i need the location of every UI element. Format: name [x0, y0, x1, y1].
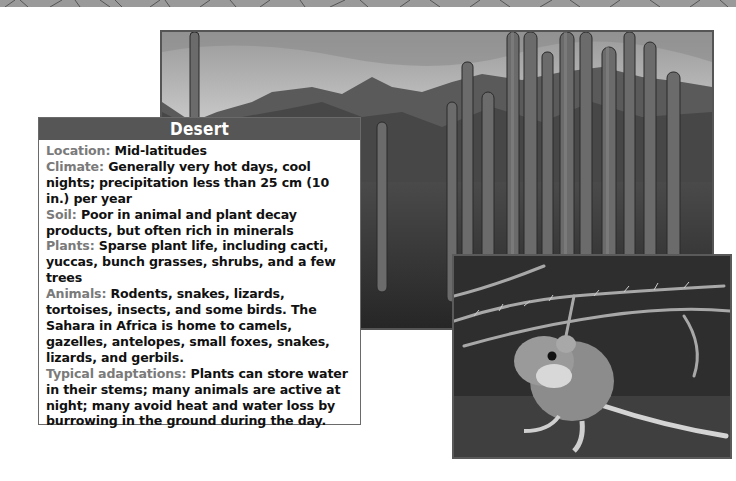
decorative-texture-strip [0, 0, 736, 7]
fact-location: Location: Mid-latitudes [46, 143, 354, 159]
kangaroo-rat-icon [454, 256, 730, 457]
kangaroo-rat-photo [452, 254, 732, 459]
fact-label: Soil: [46, 207, 77, 222]
fact-animals: Animals: Rodents, snakes, lizards, torto… [46, 286, 354, 366]
crackle-pattern-icon [0, 0, 736, 7]
biome-facts: Location: Mid-latitudes Climate: General… [39, 140, 360, 429]
fact-label: Animals: [46, 286, 106, 301]
fact-plants: Plants: Sparse plant life, including cac… [46, 238, 354, 286]
fact-label: Climate: [46, 159, 104, 174]
fact-climate: Climate: Generally very hot days, cool n… [46, 159, 354, 207]
fact-label: Location: [46, 143, 110, 158]
fact-adaptations: Typical adaptations: Plants can store wa… [46, 366, 354, 430]
fact-text: Mid-latitudes [110, 143, 207, 158]
fact-text: Poor in animal and plant decay products,… [46, 207, 297, 238]
biome-title: Desert [39, 118, 360, 140]
fact-soil: Soil: Poor in animal and plant decay pro… [46, 207, 354, 239]
fact-label: Typical adaptations: [46, 366, 186, 381]
fact-label: Plants: [46, 238, 95, 253]
biome-info-card: Desert Location: Mid-latitudes Climate: … [38, 117, 361, 425]
